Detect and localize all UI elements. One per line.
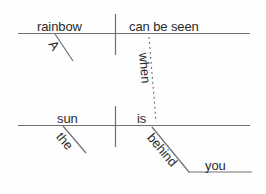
- word-subject-sun: sun: [57, 112, 78, 125]
- word-conjunction-when: when: [137, 52, 153, 84]
- word-subject-rainbow: rainbow: [37, 20, 82, 33]
- word-object-you: you: [205, 159, 226, 172]
- word-predicate-can-be-seen: can be seen: [129, 20, 199, 33]
- word-predicate-is: is: [137, 112, 146, 125]
- sentence-diagram: rainbow can be seen A when sun the is be…: [0, 0, 266, 194]
